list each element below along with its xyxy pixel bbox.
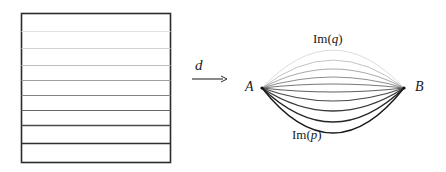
imq-roman-part: Im( <box>313 31 332 46</box>
point-label-b: B <box>415 80 424 94</box>
image-of-q-label: Im(q) <box>313 32 343 45</box>
lens-curve-8 <box>262 88 404 122</box>
node-point-a <box>260 86 263 89</box>
rectangle-border <box>22 14 171 163</box>
map-arrow-group <box>192 76 227 82</box>
imq-close-paren: ) <box>338 31 342 46</box>
figure-vector-layer <box>0 0 446 172</box>
lens-curve-4 <box>262 84 404 88</box>
imp-close-paren: ) <box>317 127 321 142</box>
lens-curve-5 <box>262 88 404 92</box>
imp-roman-part: Im( <box>292 127 311 142</box>
figure-canvas: d A B Im(q) Im(p) <box>0 0 446 172</box>
lens-curve-2 <box>262 69 404 88</box>
lens-curve-group <box>260 50 405 133</box>
point-label-a: A <box>245 80 254 94</box>
node-point-b <box>402 86 405 89</box>
foliated-rectangle-group <box>22 14 171 163</box>
map-label-d: d <box>195 58 203 73</box>
image-of-p-label: Im(p) <box>292 128 322 141</box>
